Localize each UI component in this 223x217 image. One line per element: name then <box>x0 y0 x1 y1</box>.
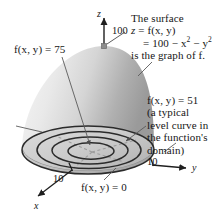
level-note-line4: the function's <box>147 131 208 143</box>
surface-note-l3b: − y <box>190 37 208 49</box>
level-note-line3: level curve in <box>147 119 208 131</box>
surface-note-sup2: 2 <box>208 35 212 44</box>
surface-note-line3: = 100 − x2 − y2 <box>131 37 212 49</box>
level-note-line5: domain) <box>147 144 208 156</box>
surface-equation-note: The surface z = f(x, y) = 100 − x2 − y2 … <box>131 12 212 62</box>
surface-note-l3a: = 100 − x <box>143 37 187 49</box>
z-tick-label-100: 100 <box>112 25 128 36</box>
axis-label-z: z <box>97 8 101 19</box>
label-f-equals-0: f(x, y) = 0 <box>81 181 127 193</box>
level-note-line1: f(x, y) = 51 <box>147 94 208 106</box>
label-f-equals-75: f(x, y) = 75 <box>14 43 65 55</box>
x-tick-label-10: 10 <box>53 173 64 184</box>
axis-label-x: x <box>34 200 38 211</box>
z-max-point-marker <box>101 44 106 49</box>
surface-note-line2: z = f(x, y) <box>131 24 212 36</box>
paraboloid-level-curve-figure: The surface z = f(x, y) = 100 − x2 − y2 … <box>0 0 223 217</box>
y-tick-label-10: 10 <box>147 156 158 167</box>
surface-note-eq: = f(x, y) <box>135 24 175 36</box>
level-curve-note: f(x, y) = 51 (a typical level curve in t… <box>147 94 208 156</box>
surface-note-line1: The surface <box>131 12 212 24</box>
axis-label-y: y <box>192 162 196 173</box>
level-note-line2: (a typical <box>147 106 208 118</box>
surface-note-line4: is the graph of f. <box>131 49 212 61</box>
